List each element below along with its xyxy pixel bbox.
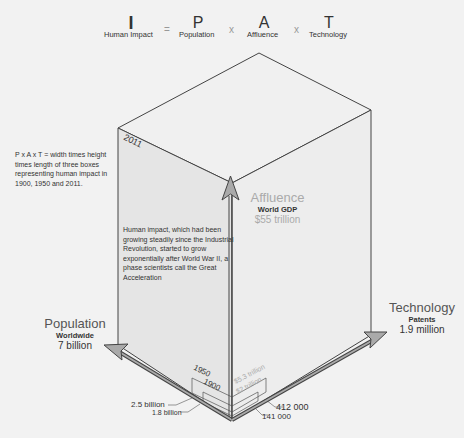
technology-1950-value: 412 000 [276, 402, 309, 412]
times-sign-2: x [294, 24, 299, 35]
affluence-label: Affluence [247, 30, 278, 39]
affluence-value: $55 trillion [240, 214, 315, 225]
pat-note: P x A x T = width times height times len… [15, 150, 115, 188]
population-letter: P [187, 15, 209, 31]
impact-letter: I [120, 15, 142, 31]
affluence-label-group: Affluence World GDP $55 trillion [240, 190, 315, 225]
technology-value: 1.9 million [382, 324, 462, 335]
population-label: Population [179, 30, 214, 39]
cube-diagram [0, 0, 464, 438]
population-label-group: Population Worldwide 7 billion [40, 316, 110, 351]
technology-title: Technology [382, 300, 462, 315]
population-value: 7 billion [40, 340, 110, 351]
population-1950-value: 2.5 billion [131, 400, 165, 409]
equation: I Human Impact = P Population x A Afflue… [0, 0, 464, 40]
affluence-title: Affluence [240, 190, 315, 205]
affluence-subtitle: World GDP [240, 205, 315, 214]
affluence-letter: A [253, 15, 275, 31]
technology-letter: T [318, 15, 340, 31]
technology-label-group: Technology Patents 1.9 million [382, 300, 462, 335]
impact-label: Human Impact [104, 30, 153, 39]
population-subtitle: Worldwide [40, 331, 110, 340]
technology-subtitle: Patents [382, 315, 462, 324]
technology-1900-value: 141 000 [262, 412, 291, 421]
equals-sign: = [164, 24, 170, 35]
times-sign-1: x [229, 24, 234, 35]
population-title: Population [40, 316, 110, 331]
great-acceleration-description: Human impact, which had been growing ste… [123, 225, 243, 282]
technology-label: Technology [309, 30, 347, 39]
population-1900-value: 1.8 billion [152, 409, 182, 416]
